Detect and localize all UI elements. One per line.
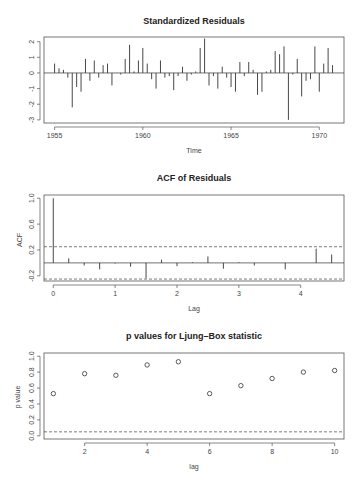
panel1-title: Standardized Residuals [143,16,245,26]
pvalue-point [207,391,211,395]
y-tick-label: 0 [28,71,35,75]
x-tick-label: 6 [208,448,212,455]
y-tick-label: -0.2 [28,270,35,282]
panel-acf-residuals: ACF of Residuals 01234-0.20.20.61.0 Lag … [16,173,344,313]
y-tick-label: 2 [28,40,35,44]
panel1-bars [44,39,344,120]
panel-ljung-box: p values for Ljung–Box statistic 2468100… [14,331,344,471]
pvalue-point [176,360,180,364]
pvalue-point [332,368,336,372]
pvalue-point [145,363,149,367]
x-tick-label: 4 [299,290,303,297]
panel2-bars [44,198,344,279]
panel3-xlabel: lag [189,463,198,471]
y-tick-label: 1.0 [28,351,35,361]
y-tick-label: 0.6 [28,219,35,229]
y-tick-label: -2 [28,101,35,107]
y-tick-label: 0.2 [28,415,35,425]
x-tick-label: 10 [331,448,339,455]
y-tick-label: -1 [28,85,35,91]
panel2-xlabel: Lag [188,305,200,313]
panel2-axes: 01234-0.20.20.61.0 [28,193,303,297]
x-tick-label: 4 [145,448,149,455]
y-tick-label: 0.0 [28,431,35,441]
pvalue-point [82,372,86,376]
x-tick-label: 1965 [223,132,239,139]
x-tick-label: 1955 [47,132,63,139]
panel3-plot-box [44,353,344,439]
x-tick-label: 8 [270,448,274,455]
x-tick-label: 3 [237,290,241,297]
panel1-xlabel: Time [186,147,201,154]
panel3-title: p values for Ljung–Box statistic [126,331,262,341]
y-tick-label: 1 [28,55,35,59]
y-tick-label: 0.4 [28,399,35,409]
x-tick-label: 1 [113,290,117,297]
diagnostics-figure: Standardized Residuals 1955196019651970-… [0,0,362,490]
y-tick-label: 0.6 [28,383,35,393]
pvalue-point [114,373,118,377]
x-tick-label: 1960 [135,132,151,139]
panel-standardized-residuals: Standardized Residuals 1955196019651970-… [28,16,344,154]
y-tick-label: 0.8 [28,367,35,377]
panel2-plot-box [44,195,344,281]
panel3-points [44,360,344,432]
panel3-ylabel: p value [14,386,22,409]
y-tick-label: -3 [28,117,35,123]
x-tick-label: 1970 [312,132,328,139]
pvalue-point [239,383,243,387]
panel3-axes: 2468100.00.20.40.60.81.0 [28,351,339,455]
panel2-ylabel: ACF [16,233,23,247]
panel1-plot-box [44,37,344,123]
pvalue-point [301,370,305,374]
x-tick-label: 2 [83,448,87,455]
x-tick-label: 0 [51,290,55,297]
pvalue-point [51,391,55,395]
pvalue-point [270,376,274,380]
y-tick-label: 0.2 [28,245,35,255]
x-tick-label: 2 [175,290,179,297]
panel2-title: ACF of Residuals [157,173,232,183]
y-tick-label: 1.0 [28,193,35,203]
panel1-axes: 1955196019651970-3-2-1012 [28,40,327,139]
